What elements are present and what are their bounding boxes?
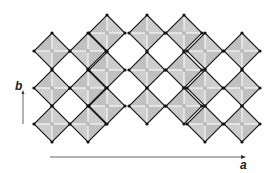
central-atom	[183, 105, 185, 107]
central-atom	[146, 69, 148, 71]
vertex-atom	[182, 122, 185, 125]
vertex-atom	[203, 68, 206, 71]
central-atom	[87, 50, 89, 52]
vertex-atom	[32, 86, 35, 89]
central-atom	[106, 69, 108, 71]
vertex-atom	[127, 104, 130, 107]
octahedra-framework-diagram	[0, 0, 277, 173]
vertex-atom	[87, 104, 90, 107]
vertex-atom	[127, 31, 130, 34]
central-atom	[106, 32, 108, 34]
octahedron	[127, 13, 166, 52]
vertex-atom	[222, 122, 225, 125]
vertex-atom	[50, 140, 53, 143]
vertex-atom	[145, 13, 148, 16]
vertex-atom	[105, 13, 108, 16]
vertex-atom	[68, 49, 71, 52]
vertex-atom	[32, 122, 35, 125]
vertex-atom	[203, 31, 206, 34]
vertex-atom	[68, 86, 71, 89]
axis-label-b: b	[15, 79, 22, 93]
vertex-atom	[87, 68, 90, 71]
axis-label-a: a	[240, 158, 247, 172]
vertex-atom	[50, 104, 53, 107]
vertex-atom	[182, 50, 185, 53]
vertex-atom	[240, 68, 243, 71]
central-atom	[241, 87, 243, 89]
vertex-atom	[87, 31, 90, 34]
vertex-atom	[145, 86, 148, 89]
central-atom	[106, 105, 108, 107]
vertex-atom	[68, 122, 71, 125]
central-atom	[87, 87, 89, 89]
vertex-atom	[50, 31, 53, 34]
central-atom	[87, 123, 89, 125]
central-atom	[204, 87, 206, 89]
vertex-atom	[123, 104, 126, 107]
vertex-atom	[105, 50, 108, 53]
vertex-atom	[203, 104, 206, 107]
vertex-atom	[50, 68, 53, 71]
octahedron	[127, 86, 166, 125]
vertex-atom	[258, 122, 261, 125]
vertex-atom	[164, 104, 167, 107]
vertex-atom	[127, 68, 130, 71]
central-atom	[183, 69, 185, 71]
central-atom	[146, 32, 148, 34]
octahedron	[32, 68, 71, 107]
vertex-atom	[185, 86, 188, 89]
vertex-atom	[86, 140, 89, 143]
vertex-atom	[123, 31, 126, 34]
vertex-atom	[203, 140, 206, 143]
vertex-atom	[105, 122, 108, 125]
central-atom	[241, 50, 243, 52]
vertex-atom	[164, 68, 167, 71]
octahedron	[222, 68, 261, 107]
vertex-atom	[182, 13, 185, 16]
central-atom	[204, 50, 206, 52]
octahedra-layer	[32, 13, 261, 143]
vertex-atom	[123, 68, 126, 71]
central-atom	[51, 50, 53, 52]
vertex-atom	[185, 122, 188, 125]
central-atom	[51, 87, 53, 89]
octahedron	[127, 50, 166, 89]
vertex-atom	[258, 49, 261, 52]
vertex-atom	[222, 86, 225, 89]
central-atom	[183, 32, 185, 34]
vertex-atom	[185, 49, 188, 52]
octahedron	[32, 31, 71, 70]
vertex-atom	[145, 122, 148, 125]
vertex-atom	[145, 50, 148, 53]
vertex-atom	[164, 31, 167, 34]
octahedron	[32, 104, 71, 143]
vertex-atom	[240, 31, 243, 34]
vertex-atom	[240, 104, 243, 107]
central-atom	[51, 123, 53, 125]
vertex-atom	[182, 86, 185, 89]
vertex-atom	[240, 140, 243, 143]
central-atom	[146, 105, 148, 107]
vertex-atom	[222, 49, 225, 52]
octahedron	[222, 31, 261, 70]
vertex-atom	[105, 86, 108, 89]
central-atom	[204, 123, 206, 125]
vertex-atom	[258, 86, 261, 89]
central-atom	[241, 123, 243, 125]
vertex-atom	[32, 49, 35, 52]
octahedron	[222, 104, 261, 143]
